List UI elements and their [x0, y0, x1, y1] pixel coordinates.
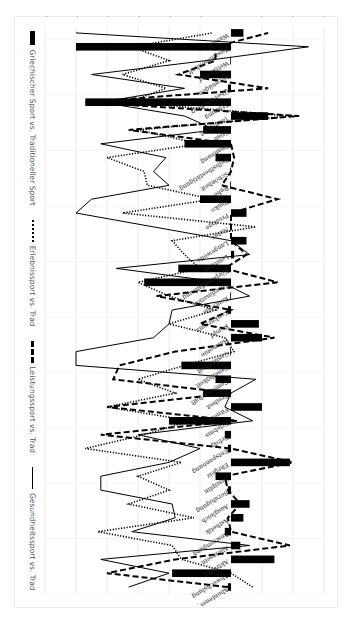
legend-item-gesundheitssport: Gesundheitssport vs. Trad	[29, 467, 38, 591]
solid-line-swatch-icon	[33, 467, 34, 489]
legend-item-griechischer-sport: Griechischer Sport vs. Traditioneller Sp…	[29, 31, 38, 205]
legend-item-erlebnissport: Erlebnissport vs. Trad	[29, 220, 38, 327]
svg-text:-0,5: -0,5	[69, 16, 84, 18]
svg-text:-0,3: -0,3	[131, 16, 146, 18]
chart-rotated-container: Abenteuer_WagnisAbwechslungAktivitätAlle…	[14, 16, 336, 606]
svg-text:0,3: 0,3	[318, 16, 330, 18]
legend-label: Leistungssport vs. Trad	[29, 367, 38, 453]
bar	[231, 514, 243, 522]
bar-swatch-icon	[31, 31, 36, 45]
category-labels: Abenteuer_WagnisAbwechslungAktivitätAlle…	[176, 32, 231, 606]
legend-item-leistungssport: Leistungssport vs. Trad	[29, 341, 38, 453]
bar	[231, 320, 259, 328]
bar	[230, 57, 231, 65]
dotted-line-swatch-icon	[32, 220, 34, 242]
gridlines	[45, 26, 324, 594]
bar	[231, 556, 274, 564]
legend-label: Griechischer Sport vs. Traditioneller Sp…	[29, 49, 38, 205]
bar	[231, 251, 234, 259]
bar	[230, 292, 231, 300]
bar	[231, 29, 243, 37]
svg-text:-0,1: -0,1	[193, 16, 208, 18]
svg-text:-0,4: -0,4	[100, 16, 115, 18]
svg-text:0: 0	[229, 16, 234, 18]
svg-text:0,2: 0,2	[287, 16, 299, 18]
svg-text:-0,2: -0,2	[162, 16, 177, 18]
legend-label: Gesundheitssport vs. Trad	[29, 493, 38, 591]
bar	[230, 348, 231, 356]
legend: Griechischer Sport vs. Traditioneller Sp…	[22, 16, 44, 606]
legend-label: Erlebnissport vs. Trad	[29, 246, 38, 327]
bar	[231, 542, 240, 550]
dashed-line-swatch-icon	[32, 341, 35, 363]
bar	[231, 403, 262, 411]
chart-plot: Abenteuer_WagnisAbwechslungAktivitätAlle…	[14, 16, 336, 606]
value-axis-ticks: 0,30,20,10-0,1-0,2-0,3-0,4-0,5-0,6	[38, 16, 331, 18]
line-solid	[76, 33, 309, 587]
svg-text:0,1: 0,1	[256, 16, 268, 18]
line-series	[76, 33, 309, 587]
